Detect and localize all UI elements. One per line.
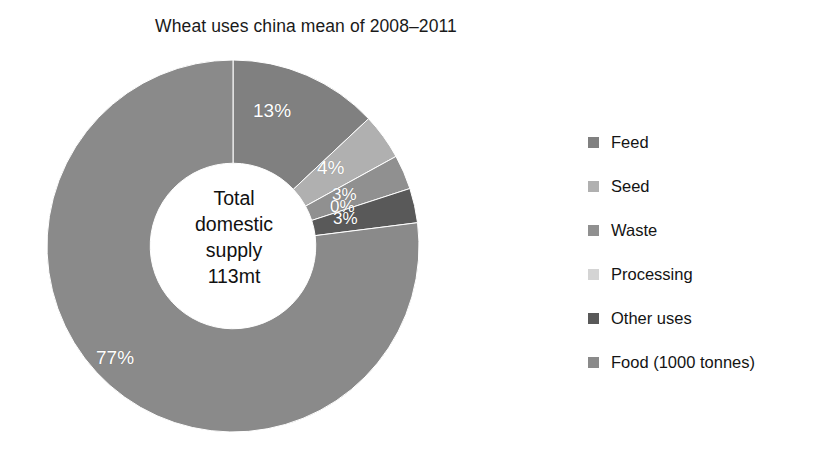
legend-swatch-icon <box>588 137 599 148</box>
legend-item-waste[interactable]: Waste <box>588 208 808 252</box>
legend-swatch-icon <box>588 313 599 324</box>
legend-item-feed[interactable]: Feed <box>588 120 808 164</box>
center-annotation-line-2: domestic <box>148 211 320 237</box>
legend-item-food-1000-tonnes[interactable]: Food (1000 tonnes) <box>588 340 808 384</box>
legend-item-processing[interactable]: Processing <box>588 252 808 296</box>
legend-item-label: Processing <box>611 265 693 284</box>
slice-label-other-uses: 3% <box>333 209 358 229</box>
center-annotation: Total domestic supply 113mt <box>148 185 320 289</box>
legend-item-label: Waste <box>611 221 657 240</box>
legend-swatch-icon <box>588 357 599 368</box>
chart-page: Wheat uses china mean of 2008–2011 13% 4… <box>0 0 814 453</box>
center-annotation-line-3: supply <box>148 237 320 263</box>
page-title: Wheat uses china mean of 2008–2011 <box>0 16 612 37</box>
legend-item-seed[interactable]: Seed <box>588 164 808 208</box>
legend-item-label: Feed <box>611 133 649 152</box>
chart-legend: FeedSeedWasteProcessingOther usesFood (1… <box>588 120 808 384</box>
center-annotation-line-1: Total <box>148 185 320 211</box>
legend-swatch-icon <box>588 269 599 280</box>
legend-item-label: Other uses <box>611 309 692 328</box>
slice-label-food: 77% <box>96 347 134 369</box>
legend-swatch-icon <box>588 181 599 192</box>
legend-item-label: Seed <box>611 177 650 196</box>
legend-item-other-uses[interactable]: Other uses <box>588 296 808 340</box>
legend-item-label: Food (1000 tonnes) <box>611 353 755 372</box>
slice-label-seed: 4% <box>317 157 344 179</box>
legend-swatch-icon <box>588 225 599 236</box>
slice-label-feed: 13% <box>253 100 291 122</box>
center-annotation-line-4: 113mt <box>148 263 320 289</box>
